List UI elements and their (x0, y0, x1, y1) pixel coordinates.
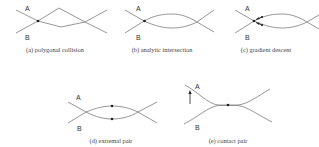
caption: (c) gradient descent (241, 46, 292, 54)
panel-d: A B (d) extremal pair (68, 94, 157, 145)
label-b: B (136, 34, 141, 41)
intersection-point (143, 20, 146, 23)
curve-a (235, 10, 319, 29)
extremal-point-b (111, 118, 114, 121)
caption: (b) analytic intersection (132, 46, 193, 54)
label-a: A (136, 5, 141, 12)
label-b: B (245, 34, 250, 41)
curve-a (125, 10, 214, 32)
label-a: A (76, 94, 81, 101)
label-a: A (245, 5, 250, 12)
gradient-arrow-upper (256, 16, 263, 20)
gradient-arrow-lower (256, 23, 263, 27)
label-a: A (25, 5, 30, 12)
caption: (d) extremal pair (90, 137, 134, 145)
curve-b (125, 10, 214, 33)
label-b: B (195, 124, 200, 131)
panel-c: A B (c) gradient descent (235, 5, 319, 54)
caption: (a) polygonal collision (26, 46, 85, 54)
intersection-point (253, 20, 256, 23)
caption: (e) contact pair (209, 137, 249, 145)
contact-point (227, 104, 230, 107)
panel-a: A B (a) polygonal collision (16, 5, 107, 54)
curve-b (16, 10, 107, 33)
extremal-point-a (111, 105, 114, 108)
panel-e: A B (e) contact pair (184, 83, 272, 145)
label-b: B (77, 125, 82, 132)
label-a: A (195, 83, 200, 90)
label-b: B (25, 34, 30, 41)
figure-canvas: A B (a) polygonal collision A B (b) anal… (0, 0, 319, 147)
arrow-up-icon (188, 90, 191, 104)
intersection-point (37, 20, 40, 23)
curve-b (184, 106, 272, 125)
panel-b: A B (b) analytic intersection (125, 5, 214, 54)
